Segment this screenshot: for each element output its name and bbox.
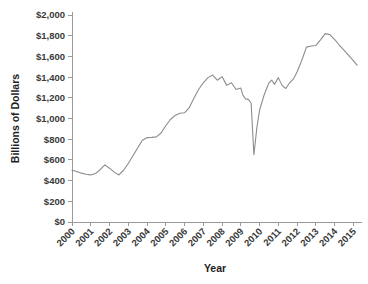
x-axis-title: Year [204,262,226,274]
y-tick-label: $0 [54,216,65,227]
x-tick-label: 2010 [242,226,265,249]
x-axis-ticks: 2000200120022003200420052006200720082009… [54,222,359,248]
chart-container: $0$200$400$600$800$1,000$1,200$1,400$1,6… [0,0,368,284]
x-tick-label: 2015 [335,225,358,248]
y-axis-ticks: $0$200$400$600$800$1,000$1,200$1,400$1,6… [36,9,72,227]
y-tick-label: $2,000 [36,9,65,20]
y-tick-label: $1,000 [36,113,65,124]
y-tick-label: $600 [44,154,65,165]
x-tick-label: 2012 [279,226,302,249]
x-tick-label: 2000 [54,226,77,249]
y-tick-label: $1,400 [36,72,65,83]
y-tick-label: $1,600 [36,51,65,62]
x-tick-label: 2008 [204,226,227,249]
x-tick-label: 2002 [92,226,115,249]
data-line [72,34,357,175]
y-tick-label: $1,800 [36,30,65,41]
y-axis-title: Billions of Dollars [9,74,21,163]
x-tick-label: 2014 [317,225,340,248]
x-tick-label: 2013 [298,226,321,249]
x-tick-label: 2011 [261,225,284,248]
x-tick-label: 2007 [185,226,208,249]
y-tick-label: $400 [44,175,65,186]
line-chart: $0$200$400$600$800$1,000$1,200$1,400$1,6… [0,0,368,284]
x-tick-label: 2005 [148,225,171,248]
x-tick-label: 2003 [110,226,133,249]
y-tick-label: $200 [44,196,65,207]
x-tick-label: 2004 [129,225,152,248]
y-tick-label: $800 [44,134,65,145]
y-tick-label: $1,200 [36,92,65,103]
axis-spines [72,12,362,222]
x-tick-label: 2006 [167,226,190,249]
data-series [72,34,357,175]
x-tick-label: 2009 [223,226,246,249]
x-tick-label: 2001 [73,225,96,248]
